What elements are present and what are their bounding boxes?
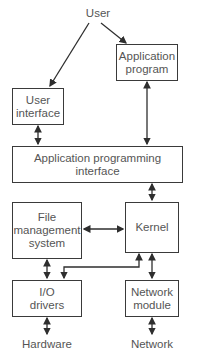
io-drivers-line2: drivers xyxy=(30,299,65,312)
user-label: User xyxy=(78,7,118,19)
file-management-line1: File xyxy=(38,211,57,224)
network-module-line1: Network xyxy=(131,286,173,299)
network-module-line2: module xyxy=(133,299,171,312)
kernel-box: Kernel xyxy=(125,202,179,253)
user-interface-line2: interface xyxy=(16,107,60,120)
application-program-line1: Application xyxy=(119,50,175,63)
network-module-box: Network module xyxy=(125,280,179,317)
kernel-label: Kernel xyxy=(135,221,168,234)
application-program-line2: program xyxy=(126,63,169,76)
file-management-line3: system xyxy=(29,237,65,250)
api-line1: Application programming xyxy=(34,152,161,165)
network-label: Network xyxy=(122,338,182,350)
api-line2: interface xyxy=(75,165,119,178)
io-drivers-line1: I/O xyxy=(39,286,54,299)
file-management-line2: management xyxy=(13,224,80,237)
file-management-system-box: File management system xyxy=(12,202,82,259)
user-interface-box: User interface xyxy=(12,88,64,125)
user-interface-line1: User xyxy=(26,94,50,107)
hardware-label: Hardware xyxy=(17,338,77,350)
os-architecture-diagram: User Application program User interface … xyxy=(0,0,197,362)
api-box: Application programming interface xyxy=(12,146,183,183)
io-drivers-box: I/O drivers xyxy=(12,280,82,317)
application-program-box: Application program xyxy=(116,44,178,81)
